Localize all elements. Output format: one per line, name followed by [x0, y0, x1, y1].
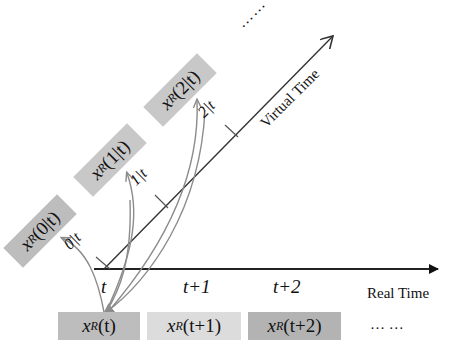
diagram-canvas	[0, 0, 462, 356]
real-tick-label-2: t+2	[273, 276, 301, 298]
real-ellipsis: … …	[370, 316, 404, 333]
real-state-label-2: xR(t+2)	[248, 312, 341, 340]
real-time-label: Real Time	[367, 285, 429, 302]
virtual-tick-0	[96, 257, 110, 269]
virtual-time-axis	[104, 36, 333, 269]
real-state-label-1: xR(t+1)	[147, 312, 241, 340]
real-state-label-0: xR(t)	[58, 312, 140, 340]
virtual-tick-1	[155, 195, 168, 208]
real-tick-label-1: t+1	[183, 276, 211, 298]
real-tick-label-0: t	[101, 276, 106, 298]
virtual-tick-2	[225, 125, 238, 137]
